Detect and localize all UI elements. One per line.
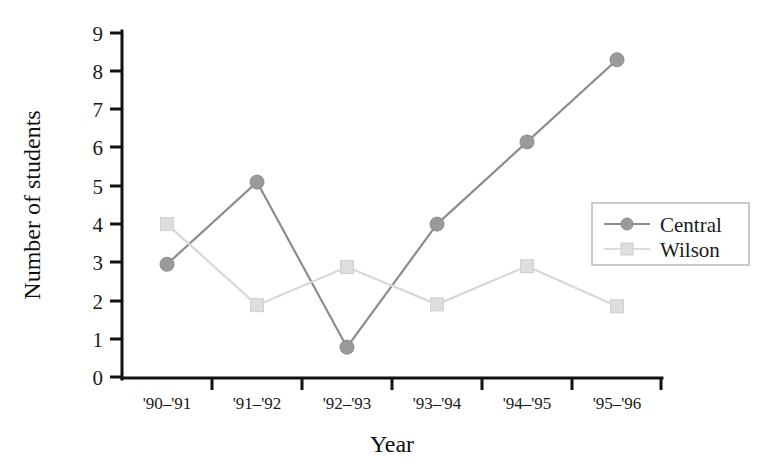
y-tick-label: 9 <box>93 22 104 46</box>
x-tick-label: '95–'96 <box>593 394 642 413</box>
y-tick-marks <box>110 33 122 377</box>
data-point-square[interactable] <box>431 298 444 311</box>
x-tick-marks <box>212 378 661 390</box>
data-point-circle[interactable] <box>430 217 444 231</box>
data-point-square[interactable] <box>341 260 354 273</box>
y-tick-label: 0 <box>93 366 104 390</box>
series-wilson <box>161 218 624 313</box>
y-tick-label: 2 <box>93 290 104 314</box>
data-point-square[interactable] <box>251 299 264 312</box>
series-central <box>160 53 624 354</box>
x-tick-label: '91–'92 <box>233 394 282 413</box>
data-point-circle[interactable] <box>520 135 534 149</box>
legend-entry-wilson[interactable]: Wilson <box>604 238 720 262</box>
x-axis-title: Year <box>370 431 414 457</box>
y-tick-label: 8 <box>93 60 104 84</box>
x-tick-label: '93–'94 <box>413 394 462 413</box>
legend: Central Wilson <box>592 203 749 265</box>
chart-page: 9 8 7 6 5 4 3 2 1 0 '90–'91 '91–'92 '92–… <box>0 0 761 474</box>
y-tick-label: 3 <box>93 251 104 275</box>
data-point-circle[interactable] <box>610 53 624 67</box>
y-tick-label: 6 <box>93 136 104 160</box>
series-line-central <box>167 60 617 347</box>
legend-label-central: Central <box>660 213 722 237</box>
y-tick-label: 5 <box>93 175 104 199</box>
x-tick-label: '92–'93 <box>323 394 372 413</box>
y-tick-label: 4 <box>93 213 104 237</box>
legend-entry-central[interactable]: Central <box>604 213 722 237</box>
y-tick-label: 1 <box>93 328 104 352</box>
data-point-circle[interactable] <box>250 175 264 189</box>
x-tick-labels: '90–'91 '91–'92 '92–'93 '93–'94 '94–'95 … <box>143 394 642 413</box>
legend-label-wilson: Wilson <box>660 238 720 262</box>
data-point-square[interactable] <box>161 218 174 231</box>
data-point-circle[interactable] <box>160 257 174 271</box>
series-line-wilson <box>167 224 617 306</box>
y-tick-labels: 9 8 7 6 5 4 3 2 1 0 <box>93 22 104 390</box>
legend-marker-square-icon <box>621 243 633 255</box>
x-tick-label: '94–'95 <box>503 394 552 413</box>
data-point-square[interactable] <box>611 300 624 313</box>
data-point-square[interactable] <box>521 260 534 273</box>
legend-marker-circle-icon <box>621 218 633 230</box>
y-tick-label: 7 <box>93 98 104 122</box>
series-layer <box>160 53 624 354</box>
y-axis-title: Number of students <box>19 110 45 299</box>
x-tick-label: '90–'91 <box>143 394 192 413</box>
data-point-circle[interactable] <box>340 340 354 354</box>
line-chart: 9 8 7 6 5 4 3 2 1 0 '90–'91 '91–'92 '92–… <box>0 0 761 474</box>
